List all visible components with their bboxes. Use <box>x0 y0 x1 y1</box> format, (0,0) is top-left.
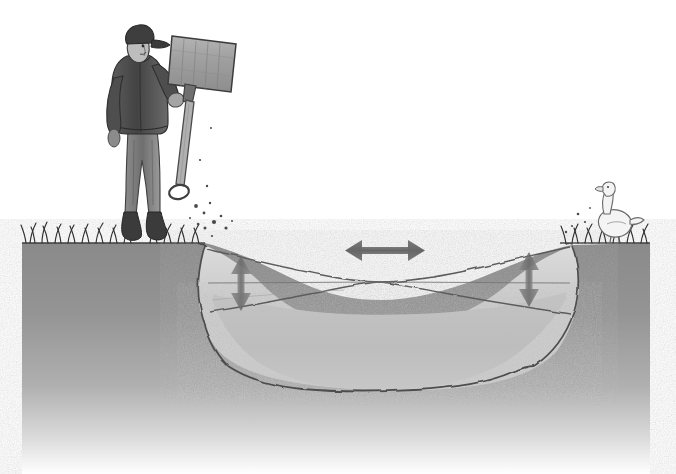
illustration-canvas: Pond Excavation Cross-Section Grayscale … <box>0 0 676 474</box>
duck-eye <box>607 186 609 188</box>
pond-cross-section-illustration <box>0 0 676 474</box>
eye <box>142 45 145 48</box>
gloved-hand-left <box>108 129 120 147</box>
duck-head <box>602 182 615 196</box>
shovel-blade <box>168 36 236 92</box>
